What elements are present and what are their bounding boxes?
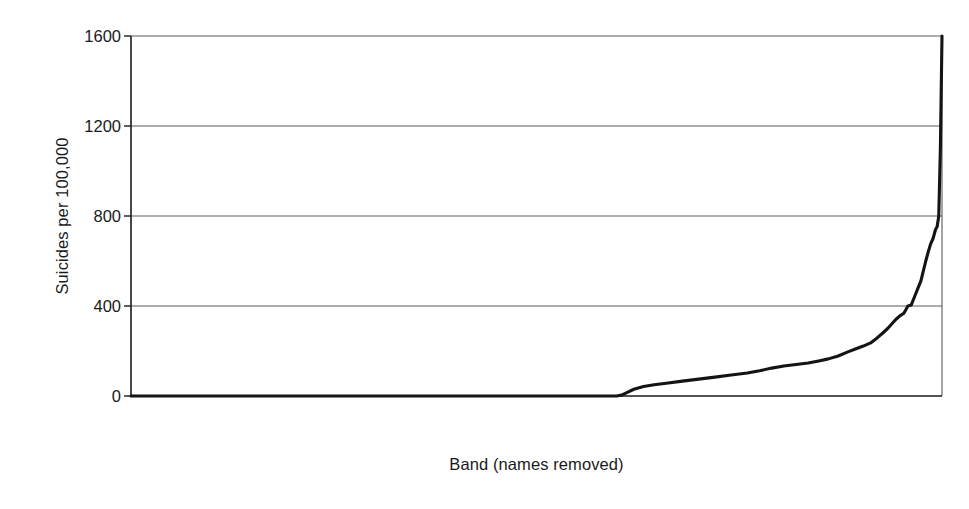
y-axis-ticks <box>124 36 131 396</box>
x-axis-title: Band (names removed) <box>131 455 942 474</box>
plot-area <box>0 0 969 509</box>
gridlines <box>131 36 942 396</box>
chart-figure: Suicides per 100,000 1600 1200 800 400 0… <box>0 0 969 509</box>
